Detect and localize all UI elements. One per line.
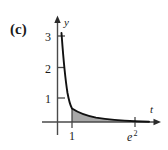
y-tick-label-2: 2	[45, 62, 51, 76]
plot-area: 3 2 1 1 e 2 y t	[0, 0, 168, 150]
y-axis-arrowhead	[54, 16, 60, 24]
x-axis-arrowhead	[154, 119, 162, 125]
curve-path	[62, 33, 150, 122]
x-axis-label: t	[150, 103, 154, 115]
y-tick-label-3: 3	[45, 30, 51, 44]
y-tick-label-1: 1	[45, 92, 51, 106]
figure-panel: (c) 3 2 1 1 e 2 y t	[0, 0, 168, 150]
x-tick-label-one: 1	[69, 129, 75, 143]
y-axis-label: y	[63, 16, 69, 28]
x-tick-label-e-squared-base: e	[127, 130, 133, 144]
x-tick-label-e-squared-exponent: 2	[134, 129, 138, 138]
